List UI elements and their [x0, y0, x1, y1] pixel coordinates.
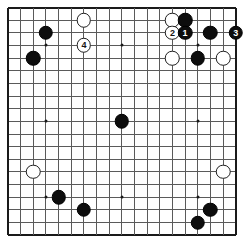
- stone-black-g3[interactable]: [77, 203, 92, 218]
- stone-white-n15[interactable]: [165, 51, 180, 66]
- stone-white-r15[interactable]: [216, 51, 231, 66]
- star-point-2: [196, 44, 199, 47]
- stone-black-q3[interactable]: [203, 203, 218, 218]
- stone-white-move-2-number: 2: [170, 28, 175, 37]
- grid-line-vertical-10: [134, 8, 135, 236]
- stone-white-g18[interactable]: [77, 13, 92, 28]
- stone-black-move-3-number: 3: [233, 28, 238, 37]
- stone-black-move-1[interactable]: 1: [178, 26, 193, 41]
- stone-black-p2[interactable]: [191, 215, 206, 230]
- grid-line-vertical-18: [235, 8, 237, 236]
- star-point-3: [44, 120, 47, 123]
- grid-line-vertical-16: [210, 8, 211, 236]
- stone-white-r6[interactable]: [216, 165, 231, 180]
- stone-white-move-4-number: 4: [81, 41, 86, 50]
- grid-line-vertical-17: [223, 8, 224, 236]
- star-point-1: [120, 44, 123, 47]
- star-point-7: [120, 196, 123, 199]
- stone-black-move-3[interactable]: 3: [228, 26, 243, 41]
- stone-black-move-1-number: 1: [183, 28, 188, 37]
- stone-black-p15[interactable]: [191, 51, 206, 66]
- stone-black-e4[interactable]: [51, 190, 66, 205]
- grid-line-vertical-1: [20, 8, 21, 236]
- go-board-diagram: 4213: [0, 0, 252, 247]
- grid-line-vertical-2: [33, 8, 34, 236]
- star-point-8: [196, 196, 199, 199]
- grid-line-vertical-8: [109, 8, 110, 236]
- stone-white-move-4[interactable]: 4: [77, 38, 92, 53]
- grid-line-vertical-13: [172, 8, 173, 236]
- stone-black-tengen[interactable]: [115, 114, 130, 129]
- stone-white-c6[interactable]: [26, 165, 41, 180]
- grid-line-vertical-12: [159, 8, 160, 236]
- grid-line-vertical-14: [185, 8, 186, 236]
- star-point-0: [44, 44, 47, 47]
- star-point-5: [196, 120, 199, 123]
- board-surface[interactable]: 4213: [0, 0, 252, 247]
- star-point-6: [44, 196, 47, 199]
- grid-line-vertical-7: [96, 8, 97, 236]
- grid-line-vertical-0: [7, 8, 9, 236]
- stone-black-c15[interactable]: [26, 51, 41, 66]
- grid-line-vertical-11: [147, 8, 148, 236]
- grid-line-vertical-5: [71, 8, 72, 236]
- stone-black-q17[interactable]: [203, 26, 218, 41]
- stone-black-d17[interactable]: [39, 26, 54, 41]
